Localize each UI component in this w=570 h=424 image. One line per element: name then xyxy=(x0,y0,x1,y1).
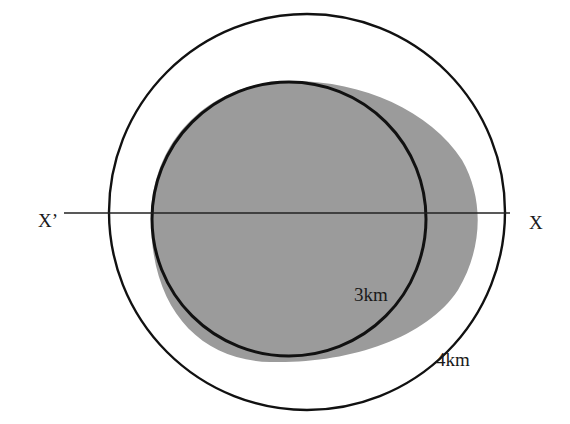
label-3km: 3km xyxy=(354,285,388,304)
label-4km: 4km xyxy=(436,350,470,369)
label-x-prime: X’ xyxy=(38,211,58,230)
shaded-region xyxy=(151,81,478,362)
diagram-canvas xyxy=(0,0,570,424)
label-x: X xyxy=(529,213,543,232)
